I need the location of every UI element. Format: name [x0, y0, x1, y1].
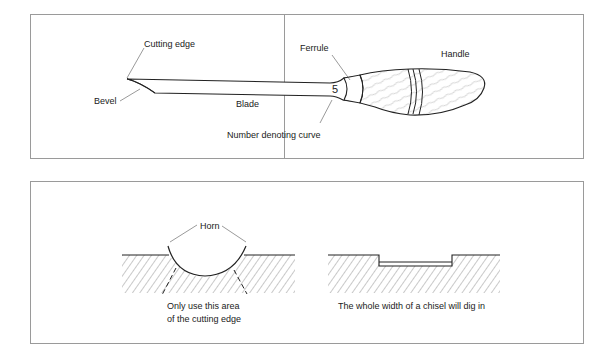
gouge-cut-profile [122, 225, 295, 295]
label-bevel: Bevel [94, 97, 117, 106]
label-horn: Horn [200, 222, 220, 231]
bottom-panel [31, 182, 584, 344]
leader-number [320, 100, 332, 123]
caption-left-line1: Only use this area [167, 302, 240, 311]
leader-horn-left [170, 225, 197, 242]
label-blade: Blade [236, 100, 259, 109]
caption-left-line2: of the cutting edge [167, 315, 241, 324]
ferrule [344, 75, 363, 103]
label-number-denoting-curve: Number denoting curve [227, 131, 321, 140]
leader-ferrule [332, 55, 350, 80]
label-handle: Handle [441, 50, 470, 59]
leader-cutting-edge [127, 48, 144, 78]
chisel-cut-profile [328, 255, 500, 293]
gouge-illustration [127, 69, 485, 115]
sweep-number: 5 [332, 84, 338, 95]
wood-section-right [328, 255, 500, 293]
leader-horn-right [222, 226, 246, 242]
wood-section-left [122, 255, 295, 293]
blade-shape [127, 77, 352, 101]
caption-right: The whole width of a chisel will dig in [338, 302, 485, 311]
label-ferrule: Ferrule [300, 44, 329, 53]
leader-bevel [120, 89, 140, 101]
label-cutting-edge: Cutting edge [144, 40, 195, 49]
